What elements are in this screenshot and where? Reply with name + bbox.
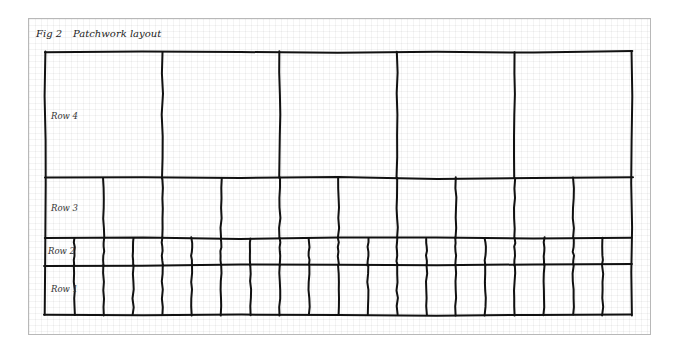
row-3-label: Row 3 (51, 203, 78, 213)
patchwork-grid (0, 0, 677, 353)
row-2-label: Row 2 (48, 246, 75, 256)
row-1-label: Row 1 (51, 284, 78, 294)
row-4-label: Row 4 (51, 111, 78, 121)
